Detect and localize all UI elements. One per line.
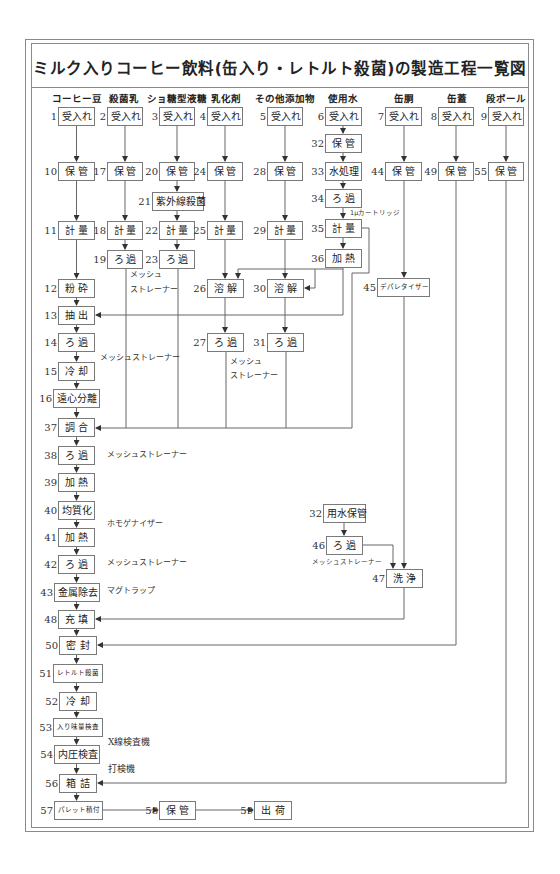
step-38-filtration: 38ろ過 — [58, 446, 95, 465]
step-number: 1 — [51, 108, 57, 125]
step-label: 保管 — [114, 166, 136, 177]
step-number: 41 — [44, 529, 57, 546]
note-27-mesh: メッシュ — [230, 357, 262, 367]
step-45-depalletizer: 45デパレタイザー — [377, 278, 430, 297]
step-label: 保管 — [166, 805, 189, 816]
step-label: 保管 — [495, 166, 517, 177]
step-number: 38 — [44, 447, 57, 464]
step-31-filtration: 31ろ過 — [267, 333, 304, 352]
step-number: 44 — [371, 163, 384, 180]
step-number: 27 — [193, 334, 206, 351]
step-label: 保管 — [274, 166, 296, 177]
step-number: 7 — [378, 108, 384, 125]
step-label: ろ過 — [333, 540, 356, 551]
step-30-dissolving: 30溶解 — [267, 279, 304, 298]
step-1-receiving-coffee-beans: 1受入れ — [58, 107, 95, 126]
step-number: 4 — [200, 108, 206, 125]
step-52-cooling: 52冷却 — [59, 692, 97, 711]
step-label: 計量 — [214, 225, 236, 236]
note-19-strainer: ストレーナー — [130, 285, 178, 295]
step-number: 19 — [93, 251, 106, 268]
step-32-storage: 32保管 — [325, 134, 362, 153]
step-53-fill-volume-inspection: 53入り味量検査 — [53, 718, 103, 737]
step-20-storage: 20保管 — [159, 162, 195, 181]
note-43-magtrap: マグトラップ — [107, 586, 155, 596]
step-label: 受入れ — [111, 111, 141, 122]
step-label: 充填 — [65, 614, 88, 625]
step-label: 密封 — [66, 640, 90, 651]
step-label: 紫外線殺菌 — [156, 196, 206, 207]
step-36-heating: 36加熱 — [325, 249, 362, 268]
note-38-mesh-strainer: メッシュストレーナー — [107, 450, 187, 460]
step-label: ろ過 — [274, 337, 297, 348]
step-49-storage: 49保管 — [438, 162, 474, 181]
step-label: 計量 — [65, 225, 88, 236]
step-15-cooling: 15冷却 — [58, 362, 95, 381]
step-number: 32 — [311, 135, 324, 152]
step-17-storage: 17保管 — [107, 162, 143, 181]
process-flow-diagram: ミルク入りコーヒー飲料(缶入り・レトルト殺菌)の製造工程一覧図 コーヒー豆 殺菌… — [0, 0, 560, 874]
step-label: ろ過 — [65, 559, 88, 570]
note-19-mesh: メッシュ — [130, 270, 162, 280]
step-number: 57 — [40, 802, 53, 819]
step-label: 内圧検査 — [58, 749, 98, 760]
step-number: 18 — [93, 222, 106, 239]
step-label: ろ過 — [65, 450, 88, 461]
step-55-storage: 55保管 — [488, 162, 524, 181]
step-58-storage: 58保管 — [159, 801, 196, 820]
step-label: 計量 — [332, 223, 355, 234]
step-number: 25 — [193, 222, 206, 239]
step-37-blending: 37調合 — [58, 418, 95, 437]
step-label: 用水保管 — [327, 508, 367, 519]
step-46-filtration: 46ろ過 — [326, 536, 363, 555]
step-label: 受入れ — [442, 111, 472, 122]
step-2-receiving-milk: 2受入れ — [107, 107, 143, 126]
step-7-receiving-can-body: 7受入れ — [385, 107, 422, 126]
step-label: 金属除去 — [58, 587, 98, 598]
step-number: 36 — [311, 250, 324, 267]
step-19-filtration: 19ろ過 — [107, 250, 143, 269]
note-40-homogenizer: ホモゲナイザー — [107, 519, 163, 529]
step-40-homogenization: 40均質化 — [58, 501, 95, 520]
step-label: 受入れ — [492, 111, 522, 122]
step-number: 13 — [44, 307, 57, 324]
step-57-palletizing: 57パレット積付 — [54, 801, 103, 820]
step-number: 32 — [309, 505, 322, 522]
step-number: 2 — [100, 108, 106, 125]
step-number: 42 — [44, 556, 57, 573]
step-47-washing: 47洗浄 — [386, 569, 423, 588]
step-number: 14 — [44, 334, 57, 351]
step-33-water-treatment: 33水処理 — [325, 162, 362, 181]
step-label: 保管 — [445, 166, 467, 177]
step-number: 58 — [145, 802, 158, 819]
step-number: 8 — [431, 108, 437, 125]
step-number: 47 — [372, 570, 385, 587]
step-number: 56 — [45, 775, 58, 792]
step-16-centrifugation: 16遠心分離 — [53, 389, 100, 408]
step-number: 15 — [44, 363, 57, 380]
step-9-receiving-cardboard: 9受入れ — [488, 107, 524, 126]
step-label: 受入れ — [329, 111, 359, 122]
step-number: 29 — [253, 222, 266, 239]
step-number: 11 — [44, 222, 57, 239]
step-number: 48 — [44, 611, 57, 628]
step-label: ろ過 — [214, 337, 237, 348]
step-21-uv-sterilization: 21紫外線殺菌 — [152, 192, 204, 211]
step-number: 16 — [39, 390, 52, 407]
step-10-storage: 10保管 — [58, 162, 95, 181]
step-label: 抽出 — [65, 310, 88, 321]
note-54-tap-inspector: 打検機 — [108, 764, 135, 774]
step-35-weighing: 35計量 — [325, 219, 362, 238]
step-number: 59 — [240, 802, 253, 819]
step-number: 53 — [39, 719, 52, 736]
step-label: 箱詰 — [66, 778, 90, 789]
step-label: 加熱 — [65, 532, 88, 543]
step-label: 粉砕 — [65, 283, 88, 294]
step-number: 22 — [145, 222, 158, 239]
step-number: 43 — [40, 584, 53, 601]
step-29-weighing: 29計量 — [267, 221, 303, 240]
step-label: ろ過 — [65, 337, 88, 348]
note-46-mesh-strainer: メッシュストレーナー — [312, 557, 382, 567]
step-label: 冷却 — [65, 366, 88, 377]
step-label: 溶解 — [214, 283, 237, 294]
